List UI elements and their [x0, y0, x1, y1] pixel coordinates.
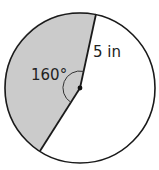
- angle-label: 160°: [31, 66, 67, 84]
- center-point: [78, 86, 83, 91]
- radius-label: 5 in: [93, 43, 121, 61]
- circle-sector-diagram: 160° 5 in: [0, 0, 159, 170]
